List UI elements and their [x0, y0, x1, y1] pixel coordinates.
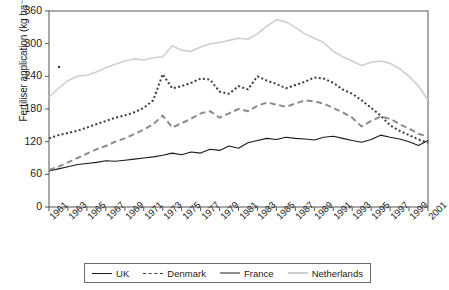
chart-legend: UK Denmark France Netherlands	[84, 263, 371, 283]
legend-label-netherlands: Netherlands	[312, 268, 363, 279]
stray-marker-dot	[58, 66, 60, 68]
y-tick-label: 360	[10, 4, 42, 16]
legend-item-denmark: Denmark	[143, 268, 206, 279]
legend-swatch-uk-icon	[92, 273, 112, 274]
y-tick-label: 300	[10, 37, 42, 49]
series-line-france	[49, 100, 428, 170]
legend-label-denmark: Denmark	[167, 268, 206, 279]
y-tick-label: 180	[10, 102, 42, 114]
y-tick-label: 0	[10, 200, 42, 212]
legend-item-france: France	[220, 268, 274, 279]
y-tick-label: 240	[10, 69, 42, 81]
legend-item-netherlands: Netherlands	[288, 268, 363, 279]
legend-item-uk: UK	[92, 268, 129, 279]
legend-label-uk: UK	[116, 268, 129, 279]
legend-swatch-netherlands-icon	[288, 272, 308, 274]
legend-label-france: France	[244, 268, 274, 279]
y-tick-label: 120	[10, 135, 42, 147]
y-tick-label: 60	[10, 167, 42, 179]
legend-swatch-france-icon	[220, 272, 240, 274]
series-line-netherlands	[49, 20, 428, 101]
series-line-uk	[49, 135, 428, 171]
legend-swatch-denmark-icon	[143, 273, 163, 274]
